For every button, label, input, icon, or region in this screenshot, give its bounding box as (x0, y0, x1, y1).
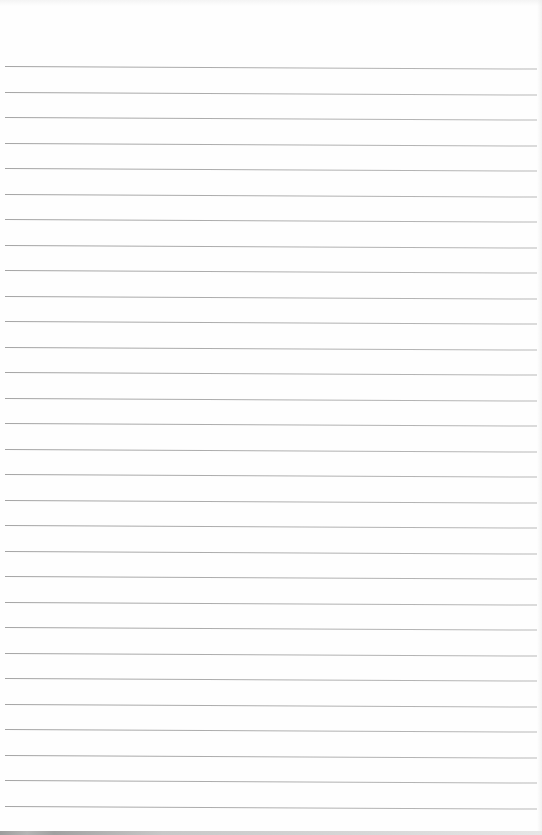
page-right-edge (537, 0, 542, 835)
ruled-line (5, 678, 537, 682)
ruled-line (5, 296, 537, 300)
ruled-line (5, 347, 537, 351)
ruled-line (5, 398, 537, 402)
ruled-line (5, 270, 537, 274)
ruled-line (5, 627, 537, 631)
ruled-line (5, 245, 537, 249)
ruled-line (5, 372, 537, 376)
ruled-line (5, 653, 537, 657)
ruled-line (5, 449, 537, 453)
ruled-line (5, 168, 537, 172)
ruled-line (5, 806, 537, 810)
page-bottom-edge (0, 831, 542, 835)
lined-paper-page (0, 0, 542, 835)
ruled-line (5, 117, 537, 121)
ruled-line (5, 219, 537, 223)
ruled-line (5, 500, 537, 504)
ruled-line (5, 92, 537, 96)
ruled-line (5, 704, 537, 708)
ruled-line (5, 551, 537, 555)
ruled-line (5, 143, 537, 147)
ruled-line (5, 423, 537, 427)
ruled-line (5, 755, 537, 759)
ruled-line (5, 194, 537, 198)
ruled-line (5, 66, 537, 70)
ruled-line (5, 729, 537, 733)
ruled-line (5, 780, 537, 784)
ruled-line (5, 525, 537, 529)
ruled-line (5, 474, 537, 478)
ruled-line (5, 576, 537, 580)
top-margin-smudge (0, 0, 542, 6)
ruled-line (5, 321, 537, 325)
ruled-line (5, 602, 537, 606)
